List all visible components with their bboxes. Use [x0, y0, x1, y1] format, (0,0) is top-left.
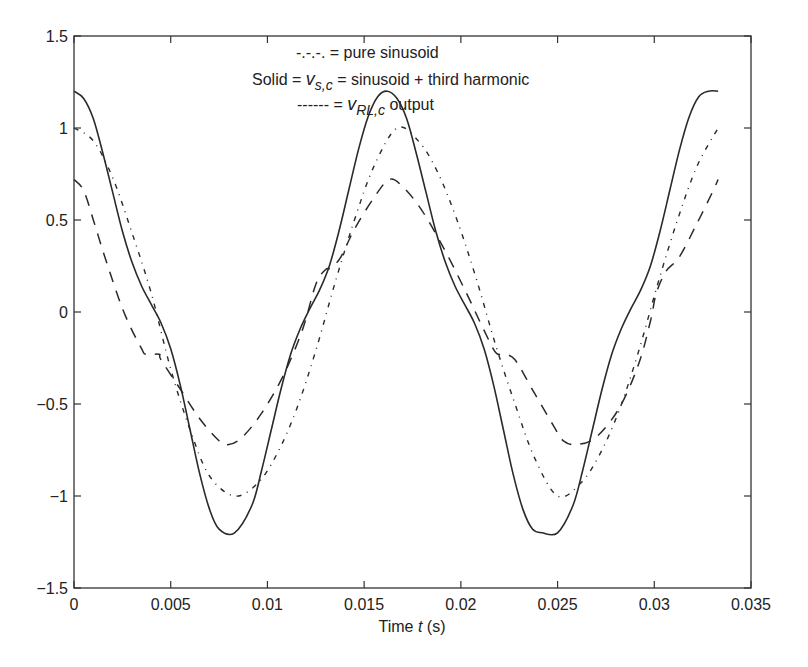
x-tick-label: 0.005	[151, 596, 191, 613]
y-tick-label: 1.5	[46, 28, 68, 45]
legend-entry-pure-sinusoid: -.-.-. = pure sinusoid	[296, 44, 439, 61]
legend-text-rl-output: output	[385, 96, 434, 113]
x-tick-label: 0.015	[344, 596, 384, 613]
x-tick-label: 0.03	[639, 596, 670, 613]
x-axis-label: Time t (s)	[379, 618, 446, 635]
x-tick-label: 0.02	[445, 596, 476, 613]
y-tick-label: −1	[50, 488, 68, 505]
x-tick-label: 0.01	[252, 596, 283, 613]
legend-marker-dashed: ------ =	[297, 96, 347, 113]
y-tick-label: −1.5	[36, 580, 68, 597]
x-tick-label: 0.025	[538, 596, 578, 613]
legend-sub-rlc: RL,c	[356, 102, 385, 118]
legend-prefix-solid: Solid =	[252, 71, 306, 88]
y-tick-label: −0.5	[36, 396, 68, 413]
y-tick-label: 0.5	[46, 212, 68, 229]
x-tick-label: 0	[70, 596, 79, 613]
y-tick-label: 0	[59, 304, 68, 321]
line-chart: 00.0050.010.0150.020.0250.030.0351.510.5…	[0, 0, 808, 667]
x-tick-label: 0.035	[731, 596, 771, 613]
x-axis-label-prefix: Time	[379, 618, 418, 635]
legend-text-pure-sinusoid: = pure sinusoid	[325, 44, 438, 61]
x-axis-label-suffix: (s)	[422, 618, 445, 635]
y-tick-label: 1	[59, 120, 68, 137]
legend-sub-sc: s,c	[315, 77, 333, 93]
legend-marker-dashdot: -.-.-.	[296, 44, 325, 61]
legend-text-solid: = sinusoid + third harmonic	[333, 71, 530, 88]
